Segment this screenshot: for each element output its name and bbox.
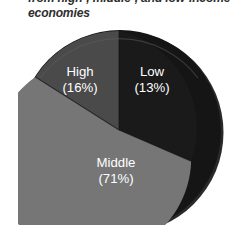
pie-label-low-value: (13%)	[134, 80, 169, 95]
pie-label-middle-value: (71%)	[98, 171, 133, 186]
pie-label-high-value: (16%)	[62, 80, 97, 95]
pie-chart-svg: High (16%) Low (13%) Middle (71%)	[18, 30, 224, 225]
pie-label-low-name: Low	[140, 64, 165, 79]
pie-label-high: High (16%)	[62, 64, 97, 95]
pie-label-middle-name: Middle	[97, 155, 136, 170]
pie-label-high-name: High	[66, 64, 93, 79]
figure-caption: from high-, middle-, and low-income econ…	[0, 0, 250, 20]
pie-chart: High (16%) Low (13%) Middle (71%)	[18, 30, 224, 225]
pie-chart-figure: from high-, middle-, and low-income econ…	[0, 0, 250, 245]
pie-label-middle: Middle (71%)	[97, 155, 136, 186]
